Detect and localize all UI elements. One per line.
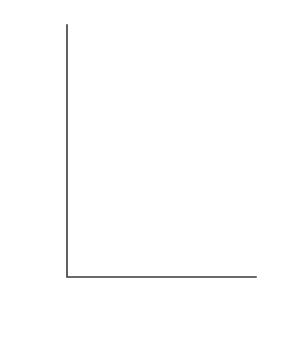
chart-axes [67, 25, 256, 277]
line-chart [0, 0, 285, 354]
chart-container [0, 0, 285, 354]
axis-spines [67, 25, 256, 277]
